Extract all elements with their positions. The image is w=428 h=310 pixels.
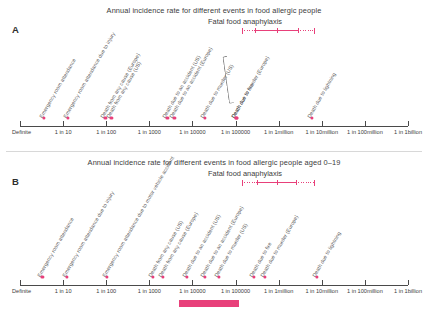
range-segment <box>296 180 297 185</box>
data-point-marker <box>104 116 107 119</box>
event-label: Death due to murder (Europe) <box>230 55 271 119</box>
event-label: Death due to an accident (US) <box>161 54 202 119</box>
axis-tick-label: 1 in 1000 <box>138 129 161 135</box>
axis-tick-label: 1 in 10 <box>55 288 72 294</box>
axis-tick-label: 1 in 100million <box>347 288 383 294</box>
axis-tick <box>63 121 64 126</box>
axis-tick <box>149 121 150 126</box>
range-segment <box>314 180 315 186</box>
axis-tick <box>408 280 409 285</box>
axis-tick <box>408 121 409 126</box>
range-segment <box>314 28 315 34</box>
axis-tick-label: 1 in 10000 <box>179 129 205 135</box>
axis-tick <box>192 121 193 126</box>
axis-tick <box>106 280 107 285</box>
panel-a: Annual incidence rate for different even… <box>0 0 428 152</box>
axis-tick-label: 1 in 1billion <box>394 129 422 135</box>
range-segment <box>298 28 299 33</box>
axis-tick-label: 1 in 100000 <box>221 129 250 135</box>
panel-a-anaphylaxis-range <box>242 27 315 34</box>
range-segment <box>277 28 278 33</box>
range-segment <box>242 182 257 183</box>
panel-b-anaphylaxis-range <box>242 179 315 186</box>
range-segment <box>255 28 256 33</box>
axis-line <box>20 285 408 286</box>
axis-tick-label: Definite <box>12 129 31 135</box>
axis-tick-label: 1 in 10000 <box>179 288 205 294</box>
range-segment <box>242 30 255 31</box>
data-point-marker <box>67 116 70 119</box>
axis-tick <box>20 121 21 126</box>
axis-tick <box>279 280 280 285</box>
panel-a-letter: A <box>12 24 19 35</box>
range-segment <box>298 30 315 31</box>
axis-tick-label: 1 in 10 <box>55 129 72 135</box>
axis-tick <box>63 280 64 285</box>
data-point-marker <box>41 275 44 278</box>
axis-tick-label: 1 in 100 <box>96 129 116 135</box>
data-point-marker <box>315 275 318 278</box>
panel-b-subtitle: Fatal food anaphylaxis <box>0 169 428 178</box>
axis-tick-label: 1 in 100000 <box>221 288 250 294</box>
data-point-marker <box>42 116 45 119</box>
panel-a-title: Annual incidence rate for different even… <box>0 6 428 15</box>
event-label: Death due to lightning <box>310 230 341 278</box>
axis-tick <box>322 121 323 126</box>
axis-line <box>20 126 408 127</box>
data-point-marker <box>311 116 314 119</box>
data-point-marker <box>263 275 266 278</box>
axis-tick-label: Definite <box>12 288 31 294</box>
data-point-marker <box>173 116 176 119</box>
axis-tick-label: 1 in 1million <box>264 129 294 135</box>
axis-tick <box>322 280 323 285</box>
data-point-marker <box>166 116 169 119</box>
range-segment <box>296 182 315 183</box>
data-point-marker <box>235 116 238 119</box>
axis-tick-label: 1 in 100million <box>347 129 383 135</box>
axis-tick <box>365 280 366 285</box>
data-point-marker <box>203 275 206 278</box>
axis-tick <box>365 121 366 126</box>
event-label: Death due to lightning <box>306 71 337 119</box>
data-point-marker <box>105 275 108 278</box>
axis-tick-label: 1 in 1billion <box>394 288 422 294</box>
data-point-marker <box>203 116 206 119</box>
axis-tick-label: 1 in 1million <box>264 288 294 294</box>
data-point-marker <box>252 275 255 278</box>
axis-tick-label: 1 in 100 <box>96 288 116 294</box>
panel-b-title: Annual incidence rate for different even… <box>0 158 428 167</box>
axis-tick <box>236 280 237 285</box>
data-point-marker <box>186 275 189 278</box>
axis-tick-label: 1 in 10million <box>305 129 338 135</box>
axis-tick <box>149 280 150 285</box>
data-point-marker <box>218 275 221 278</box>
event-label: Death from any cause (US) <box>105 60 142 119</box>
axis-tick <box>106 121 107 126</box>
axis-tick <box>279 121 280 126</box>
axis-tick-label: 1 in 1000 <box>138 288 161 294</box>
axis-tick <box>192 280 193 285</box>
axis-tick <box>236 121 237 126</box>
range-segment <box>242 28 243 34</box>
panel-b-letter: B <box>12 176 19 187</box>
axis-tick <box>20 280 21 285</box>
data-point-marker <box>110 116 113 119</box>
panel-a-subtitle: Fatal food anaphylaxis <box>0 17 428 26</box>
panel-b: Annual incidence rate for different even… <box>0 152 428 310</box>
data-point-marker <box>162 275 165 278</box>
figure-canvas: Annual incidence rate for different even… <box>0 0 428 310</box>
bottom-accent-bar <box>179 300 239 307</box>
axis-tick-label: 1 in 10million <box>305 288 338 294</box>
data-point-marker <box>151 275 154 278</box>
range-segment <box>242 180 243 186</box>
range-segment <box>277 180 278 185</box>
range-segment <box>257 180 258 185</box>
data-point-marker <box>65 275 68 278</box>
